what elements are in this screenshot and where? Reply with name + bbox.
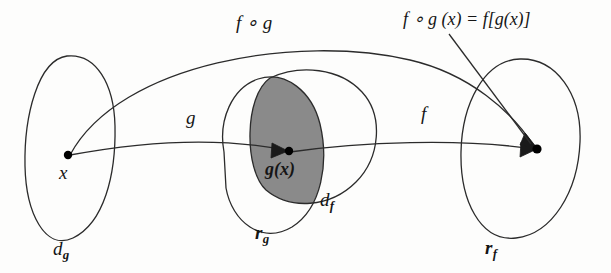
label-composition-equation: f ∘ g (x) = f[g(x)] <box>403 10 531 28</box>
label-subscript: g <box>63 247 69 262</box>
point-f-of-g-of-x <box>532 144 541 153</box>
label-subscript: g <box>263 231 269 246</box>
arrow-f <box>290 142 534 152</box>
diagram-canvas <box>0 0 611 273</box>
label-arrow-f: f <box>421 104 426 123</box>
label-set-range-of-g: rg <box>255 223 269 242</box>
label-composition-arc: f ∘ g <box>236 13 272 32</box>
composition-diagram: f ∘ g f ∘ g (x) = f[g(x)] g f x g(x) dg … <box>0 0 611 273</box>
label-subscript: f <box>493 246 497 261</box>
label-set-range-of-f: rf <box>485 238 497 257</box>
label-set-domain-of-g: dg <box>53 239 69 258</box>
label-point-x: x <box>59 163 67 182</box>
label-point-g-of-x: g(x) <box>265 160 295 178</box>
leader-line-equation <box>449 34 531 144</box>
label-subscript: f <box>330 198 334 213</box>
point-x <box>64 151 72 159</box>
oval-domain-of-g <box>25 56 115 241</box>
label-arrow-g: g <box>186 108 196 127</box>
point-g-of-x <box>285 147 293 155</box>
label-set-domain-of-f: df <box>320 190 334 209</box>
intersection-shaded-region <box>250 70 376 204</box>
